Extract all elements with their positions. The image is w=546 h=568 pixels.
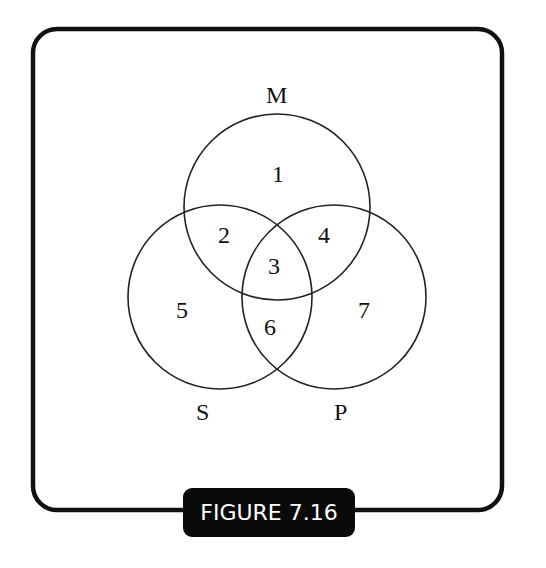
set-label-p: P (334, 399, 347, 425)
region-3: 3 (268, 253, 280, 279)
region-2: 2 (218, 222, 230, 248)
set-label-m: M (266, 82, 287, 108)
region-6: 6 (264, 314, 276, 340)
set-label-s: S (196, 399, 209, 425)
region-7: 7 (358, 297, 370, 323)
venn-diagram-figure: M S P 1 2 3 4 5 6 7 FIGURE 7.16 (0, 0, 546, 568)
circle-p (242, 205, 426, 389)
region-4: 4 (318, 222, 330, 248)
figure-caption: FIGURE 7.16 (200, 500, 337, 525)
region-1: 1 (272, 161, 284, 187)
region-5: 5 (176, 297, 188, 323)
